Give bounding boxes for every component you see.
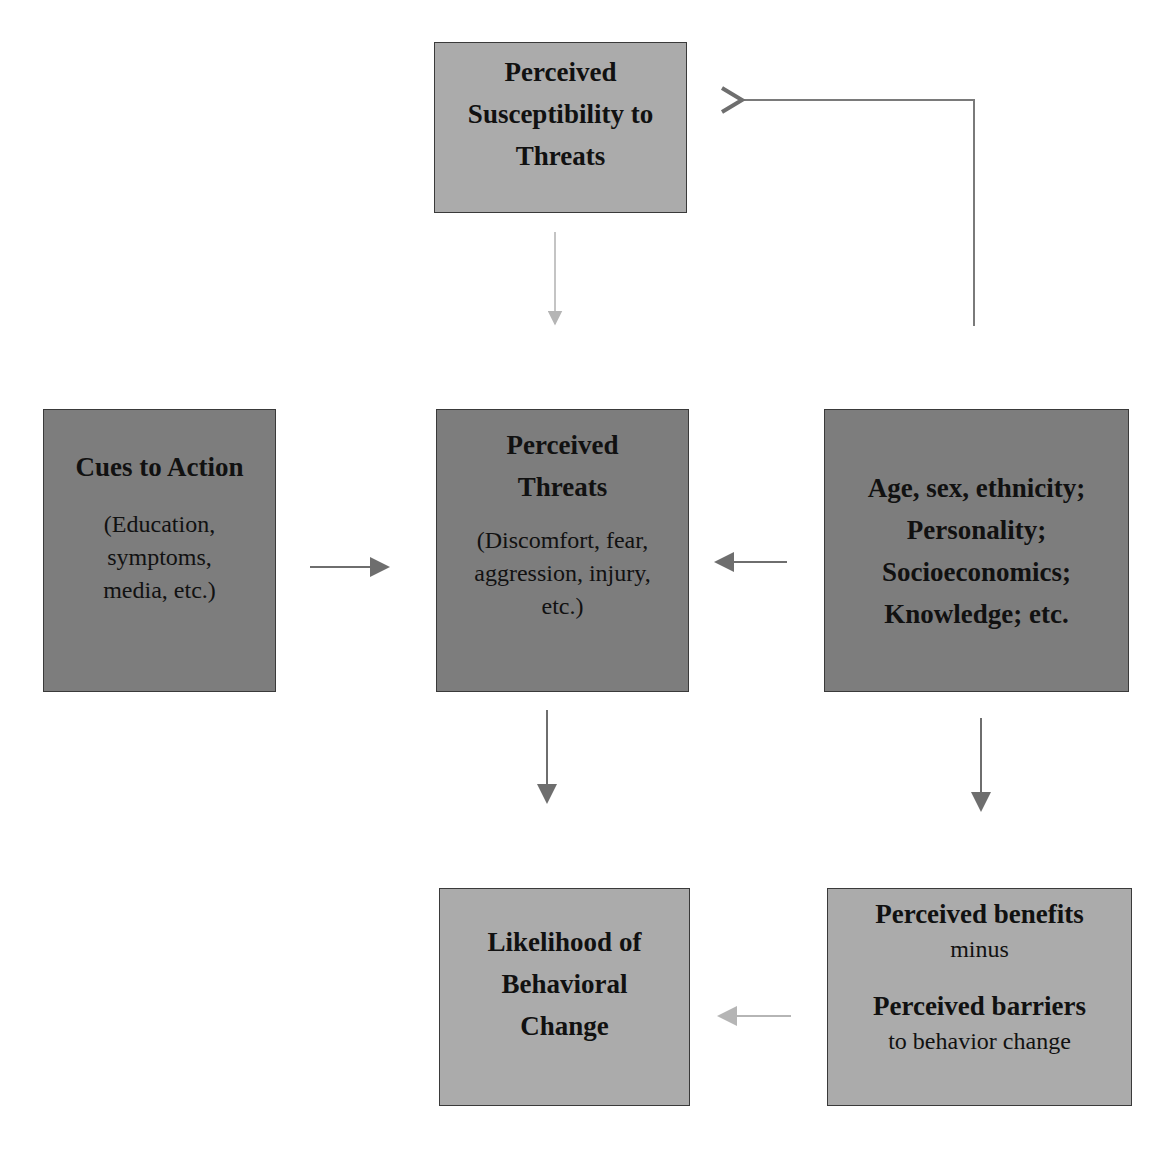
node-title-line: Likelihood of — [488, 921, 642, 963]
node-modifying-factors: Age, sex, ethnicity; Personality; Socioe… — [824, 409, 1129, 692]
node-benefits-minus-barriers: Perceived benefits minus Perceived barri… — [827, 888, 1132, 1106]
node-title-line: Change — [520, 1005, 609, 1047]
node-title-line: Susceptibility to — [468, 93, 653, 135]
node-detail-line: media, etc.) — [103, 574, 216, 607]
perceived-benefits-label: Perceived benefits — [875, 893, 1084, 935]
node-title-line: Behavioral — [502, 963, 628, 1005]
arrow-modifying-to-susceptibility — [742, 100, 974, 326]
node-title-line: Threats — [516, 135, 606, 177]
perceived-barriers-label: Perceived barriers — [873, 985, 1086, 1027]
node-likelihood-of-behavioral-change: Likelihood of Behavioral Change — [439, 888, 690, 1106]
node-perceived-susceptibility: Perceived Susceptibility to Threats — [434, 42, 687, 213]
node-title-line: Socioeconomics; — [882, 551, 1071, 593]
minus-label: minus — [950, 935, 1009, 963]
node-title-line: Threats — [518, 466, 608, 508]
node-cues-to-action: Cues to Action (Education, symptoms, med… — [43, 409, 276, 692]
node-perceived-threats: Perceived Threats (Discomfort, fear, agg… — [436, 409, 689, 692]
node-detail-line: (Education, — [104, 508, 215, 541]
node-title-line: Perceived — [507, 424, 619, 466]
node-title: Cues to Action — [76, 446, 244, 488]
node-detail-line: aggression, injury, — [474, 557, 650, 590]
node-detail-line: etc.) — [542, 590, 584, 623]
node-title-line: Knowledge; etc. — [884, 593, 1068, 635]
node-detail-line: (Discomfort, fear, — [477, 524, 649, 557]
node-title-line: Personality; — [907, 509, 1046, 551]
barriers-sub-label: to behavior change — [888, 1027, 1071, 1055]
node-detail-line: symptoms, — [107, 541, 212, 574]
node-title-line: Perceived — [505, 51, 617, 93]
node-title-line: Age, sex, ethnicity; — [868, 467, 1085, 509]
